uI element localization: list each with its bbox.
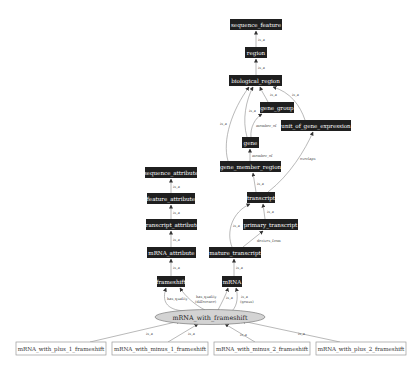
node-mrna-with-plus-1-frameshift[interactable]: mRNA_with_plus_1_frameshift bbox=[16, 342, 106, 355]
node-primary-transcript[interactable]: primary_transcript bbox=[243, 219, 298, 230]
edge-label: member_of bbox=[252, 154, 273, 158]
ontology-graph: is_a is_a is_a is_a is_a is_a member_of … bbox=[0, 0, 419, 365]
svg-text:mRNA_with_minus_2_frameshift: mRNA_with_minus_2_frameshift bbox=[216, 346, 309, 353]
node-transcript[interactable]: transcript bbox=[247, 192, 276, 203]
edge-label: is_a bbox=[298, 332, 306, 336]
edge-gene-group-biological-region bbox=[260, 87, 268, 102]
svg-text:mRNA_with_minus_1_frameshift: mRNA_with_minus_1_frameshift bbox=[114, 346, 207, 353]
edge-label: is_a bbox=[173, 185, 181, 189]
edge-label: overlaps bbox=[300, 157, 316, 161]
svg-text:region: region bbox=[247, 50, 266, 57]
edge-label: derives_from bbox=[257, 239, 281, 243]
edge-label: has_quality bbox=[167, 297, 189, 301]
svg-text:sequence_feature: sequence_feature bbox=[231, 22, 282, 29]
edge-plus2-mwf bbox=[242, 321, 340, 342]
node-biological-region[interactable]: biological_region bbox=[229, 75, 282, 86]
svg-text:unit_of_gene_expression: unit_of_gene_expression bbox=[281, 123, 351, 130]
edge-label: is_a bbox=[240, 333, 248, 337]
edge-label: (difference) bbox=[195, 300, 217, 304]
edge-transcript-gene-member-region bbox=[253, 173, 256, 192]
edge-label: is_a bbox=[258, 38, 266, 42]
node-feature-attribute[interactable]: feature_attribute bbox=[147, 193, 196, 204]
edge-primary-transcript-transcript bbox=[263, 204, 265, 219]
node-mrna-with-frameshift[interactable]: mRNA_with_frameshift bbox=[155, 310, 265, 325]
svg-text:mRNA_with_plus_2_frameshift: mRNA_with_plus_2_frameshift bbox=[318, 346, 405, 353]
node-unit-of-gene-expression[interactable]: unit_of_gene_expression bbox=[281, 120, 351, 131]
edge-label: is_a bbox=[257, 182, 265, 186]
svg-text:gene: gene bbox=[244, 140, 258, 147]
svg-text:frameshift: frameshift bbox=[156, 279, 186, 285]
edge-label: is_a bbox=[226, 296, 234, 300]
node-gene-group[interactable]: gene_group bbox=[260, 102, 294, 113]
node-mrna-with-plus-2-frameshift[interactable]: mRNA_with_plus_2_frameshift bbox=[316, 342, 406, 355]
node-mrna-attribute[interactable]: mRNA_attribute bbox=[147, 247, 196, 258]
svg-text:biological_region: biological_region bbox=[231, 78, 280, 85]
svg-text:transcript_attribute: transcript_attribute bbox=[144, 222, 201, 229]
node-mrna-with-minus-2-frameshift[interactable]: mRNA_with_minus_2_frameshift bbox=[214, 342, 310, 355]
edge-gene-member-region-biological-region bbox=[226, 87, 249, 161]
edges: is_a is_a is_a is_a is_a is_a member_of … bbox=[90, 31, 340, 342]
node-sequence-attribute[interactable]: sequence_attribute bbox=[144, 167, 199, 178]
edge-label: (genus) bbox=[240, 300, 254, 304]
svg-text:feature_attribute: feature_attribute bbox=[147, 196, 196, 203]
node-frameshift[interactable]: frameshift bbox=[156, 276, 186, 287]
node-mature-transcript[interactable]: mature_transcript bbox=[209, 247, 261, 258]
edge-label: is_a bbox=[236, 266, 244, 270]
edge-label: is_a bbox=[249, 109, 257, 113]
svg-text:mature_transcript: mature_transcript bbox=[209, 250, 261, 257]
edge-label: is_a bbox=[267, 210, 275, 214]
svg-text:gene_member_region: gene_member_region bbox=[220, 164, 282, 171]
node-region[interactable]: region bbox=[245, 47, 267, 58]
node-transcript-attribute[interactable]: transcript_attribute bbox=[144, 219, 201, 230]
edge-label: has_quality bbox=[196, 295, 218, 299]
node-gene-member-region[interactable]: gene_member_region bbox=[220, 161, 282, 172]
svg-text:mRNA_attribute: mRNA_attribute bbox=[148, 250, 195, 257]
node-gene[interactable]: gene bbox=[242, 137, 259, 148]
edge-label: is_a bbox=[270, 93, 278, 97]
svg-text:gene_group: gene_group bbox=[260, 105, 294, 112]
edge-label: is_a bbox=[241, 295, 249, 299]
node-mrna[interactable]: mRNA bbox=[222, 276, 242, 287]
svg-text:mRNA_with_plus_1_frameshift: mRNA_with_plus_1_frameshift bbox=[18, 346, 105, 353]
edge-label: is_a bbox=[220, 122, 228, 126]
edge-label: is_a bbox=[173, 211, 181, 215]
edge-label: is_a bbox=[188, 332, 196, 336]
edge-label: member_of bbox=[256, 124, 277, 128]
svg-text:sequence_attribute: sequence_attribute bbox=[144, 170, 199, 177]
edge-label: is_a bbox=[258, 66, 266, 70]
svg-text:primary_transcript: primary_transcript bbox=[244, 222, 298, 229]
edge-label: is_a bbox=[292, 93, 300, 97]
edge-label: is_a bbox=[233, 224, 241, 228]
edge-label: is_a bbox=[173, 266, 181, 270]
edge-label: is_a bbox=[173, 238, 181, 242]
svg-text:transcript: transcript bbox=[247, 195, 276, 202]
node-mrna-with-minus-1-frameshift[interactable]: mRNA_with_minus_1_frameshift bbox=[112, 342, 208, 355]
svg-text:mRNA_with_frameshift: mRNA_with_frameshift bbox=[172, 314, 248, 322]
node-sequence-feature[interactable]: sequence_feature bbox=[230, 19, 282, 30]
edge-plus1-mwf bbox=[90, 321, 180, 342]
svg-text:mRNA: mRNA bbox=[223, 279, 242, 285]
edge-label: is_a bbox=[146, 332, 154, 336]
